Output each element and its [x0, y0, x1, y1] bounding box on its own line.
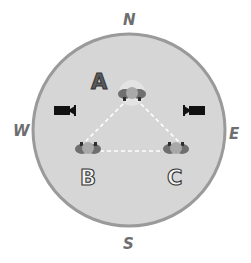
field-circle [33, 34, 225, 226]
position-label-c: C [167, 166, 182, 190]
position-label-a: A [91, 70, 108, 94]
position-label-b: B [80, 166, 96, 190]
compass-north: N [123, 13, 136, 28]
compass-diagram: A B C N W E S [0, 0, 251, 263]
field-graphic: A B C [0, 0, 251, 263]
compass-south: S [123, 237, 134, 252]
compass-east: E [229, 127, 239, 142]
compass-west: W [13, 124, 30, 139]
